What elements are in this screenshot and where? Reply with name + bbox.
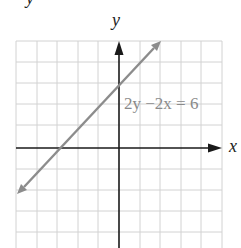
equation-label: 2y −2x = 6 [124, 94, 198, 114]
x-axis-arrow-icon [208, 144, 222, 153]
graph-canvas [0, 0, 241, 248]
y-axis-arrow-icon [115, 41, 124, 55]
x-axis-label: x [229, 136, 237, 157]
equation-line [17, 41, 161, 194]
y-axis-label: y [112, 10, 120, 31]
y-axis [115, 41, 124, 248]
corner-y-fragment: y [26, 0, 34, 9]
